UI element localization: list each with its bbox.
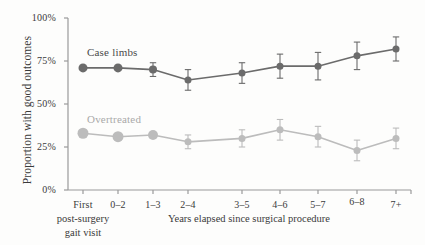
figure-container: Proportion with good outcomes 100% 75% 5…	[0, 0, 425, 245]
data-point-marker	[148, 130, 158, 140]
data-point-marker	[277, 63, 284, 70]
data-point-marker	[315, 133, 322, 140]
data-point-marker	[239, 135, 246, 142]
axes-group	[64, 18, 411, 194]
series-label-case-limbs: Case limbs	[87, 46, 138, 58]
y-tick-label-50: 50%	[18, 98, 56, 109]
series-overtreated	[78, 119, 400, 160]
x-tick-label-7plus: 7+	[366, 199, 425, 210]
x-tick-sublabel-gait-visit: gait visit	[33, 227, 133, 238]
data-point-marker	[315, 63, 322, 70]
y-tick-label-0: 0%	[18, 184, 56, 195]
x-axis-title: Years elapsed since surgical procedure	[168, 213, 330, 224]
y-tick-label-75: 75%	[18, 55, 56, 66]
y-tick-label-25: 25%	[18, 141, 56, 152]
data-point-marker	[277, 126, 284, 133]
y-axis-title: Proportion with good outcomes	[21, 15, 33, 205]
series-case-limbs	[79, 37, 400, 90]
data-point-marker	[354, 147, 361, 154]
data-point-marker	[393, 45, 400, 52]
y-tick-label-100: 100%	[18, 12, 56, 23]
data-point-marker	[185, 138, 192, 145]
data-point-marker	[185, 76, 192, 83]
x-tick-label-2-4: 2–4	[158, 199, 218, 210]
data-point-marker	[149, 66, 157, 74]
x-tick-sublabel-post-surgery: post-surgery	[33, 213, 133, 224]
data-point-marker	[113, 131, 124, 142]
data-point-marker	[239, 70, 246, 77]
series-label-overtreated: Overtreated	[87, 113, 141, 125]
data-point-marker	[114, 63, 123, 72]
data-point-marker	[354, 52, 361, 59]
data-point-marker	[393, 135, 400, 142]
data-point-marker	[78, 128, 89, 139]
data-point-marker	[79, 63, 88, 72]
